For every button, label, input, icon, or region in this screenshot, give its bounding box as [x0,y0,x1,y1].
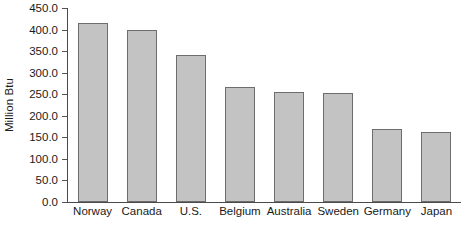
x-axis-tick-label: Canada [122,205,162,217]
x-axis-tick-label: Sweden [317,205,359,217]
x-axis-line [67,202,461,203]
x-axis-tick-label: Japan [421,205,452,217]
x-axis-tick-label: Australia [267,205,312,217]
x-axis-tick-label: Germany [364,205,411,217]
bar-sweden[interactable] [323,93,353,202]
y-axis-tick-label: 350.0 [29,45,58,57]
y-axis-tick-label: 400.0 [29,24,58,36]
bar-slot [265,8,314,202]
plot-area [68,8,461,202]
y-axis-tick-label: 300.0 [29,67,58,79]
y-axis-tick-label: 0.0 [42,196,58,208]
bar-japan[interactable] [421,132,451,202]
y-axis-tick-label: 100.0 [29,153,58,165]
y-axis-title: Million Btu [0,0,18,210]
bar-slot [166,8,215,202]
x-axis-tick-label: Belgium [219,205,261,217]
bar-norway[interactable] [78,23,108,202]
bar-belgium[interactable] [225,87,255,202]
bar-slot [117,8,166,202]
y-axis-title-text: Million Btu [3,78,15,132]
bar-u-s[interactable] [176,55,206,202]
x-axis-tick-label: Norway [73,205,112,217]
bar-slot [412,8,461,202]
bar-chart: Million Btu 0.050.0100.0150.0200.0250.03… [0,0,468,243]
y-axis-tick-label: 450.0 [29,2,58,14]
bar-slot [215,8,264,202]
y-axis-tick-label: 200.0 [29,110,58,122]
y-axis-tick-label: 50.0 [36,174,58,186]
bar-australia[interactable] [274,92,304,202]
y-axis-tick-label: 250.0 [29,88,58,100]
y-axis-tick-label: 150.0 [29,131,58,143]
bar-slot [68,8,117,202]
x-axis-tick-label: U.S. [180,205,202,217]
bar-slot [363,8,412,202]
bar-germany[interactable] [372,129,402,202]
y-axis-tick-labels: 0.050.0100.0150.0200.0250.0300.0350.0400… [18,0,62,210]
bar-canada[interactable] [127,30,157,202]
bar-slot [314,8,363,202]
x-axis-tick-labels: NorwayCanadaU.S.BelgiumAustraliaSwedenGe… [68,205,461,227]
